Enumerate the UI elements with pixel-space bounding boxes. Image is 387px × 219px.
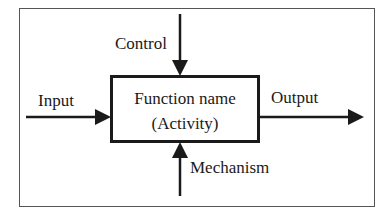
control-label: Control — [115, 34, 167, 53]
output-label: Output — [271, 88, 319, 107]
control-arrow — [172, 14, 188, 76]
mechanism-label: Mechanism — [190, 158, 269, 177]
output-arrow — [259, 109, 364, 125]
idef0-diagram: Control Input Output Mechanism Function … — [0, 0, 387, 219]
input-label: Input — [38, 91, 74, 110]
function-name-label: Function name — [134, 89, 236, 108]
mechanism-arrow — [172, 142, 188, 196]
activity-label: (Activity) — [151, 114, 218, 133]
input-arrow — [26, 109, 111, 125]
